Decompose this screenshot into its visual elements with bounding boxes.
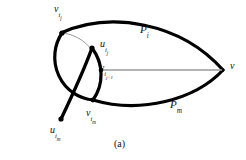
label-path-p-i-sub: i [147, 32, 149, 40]
label-v-i-j: vij [54, 4, 62, 15]
label-v-i-m-subsub: m [92, 119, 96, 125]
label-v-i-m: vim [86, 108, 96, 119]
label-path-p-m: Pm [170, 99, 182, 110]
label-path-p-m-base: P [170, 98, 177, 110]
label-vertex-v: v [230, 61, 234, 71]
figure-caption: (a) [114, 139, 125, 149]
label-v-i-j-plus-1: vij+1 [100, 64, 113, 75]
label-path-p-i: Pi [140, 24, 149, 35]
label-u-i-m-subsub: m [57, 136, 61, 142]
label-path-p-m-sub: m [177, 107, 182, 115]
label-v-i-j-subsub: j [60, 15, 61, 21]
vertex-dot-u-ij [89, 45, 94, 50]
vertex-dot-v-ij [59, 30, 64, 35]
label-u-i-m: uim [50, 125, 61, 136]
vertex-dot-u-im [58, 116, 63, 121]
label-u-i-j-subsub: j [107, 50, 108, 56]
label-u-i-j: uij [100, 39, 108, 50]
figure-diagram [0, 0, 246, 160]
label-path-p-i-base: P [140, 23, 147, 35]
figure-container: vij uij vij+1 vim uim Pi Pm v (a) [0, 0, 246, 160]
label-v-i-j-plus-1-subsub: j+1 [106, 75, 113, 80]
vertex-dot-v-im [91, 98, 96, 103]
